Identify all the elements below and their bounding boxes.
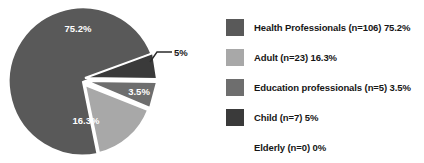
pie-slice-label-health-professionals: 75.2%: [65, 23, 92, 34]
legend-swatch-health-professionals: [226, 19, 244, 36]
legend-item-education-professionals[interactable]: Education professionals (n=5) 3.5%: [226, 72, 424, 102]
chart-legend: Health Professionals (n=106) 75.2% Adult…: [226, 12, 424, 157]
pie-chart-svg: 75.2% 16.3% 3.5% 5%: [0, 0, 212, 163]
legend-swatch-elderly: [226, 139, 244, 156]
pie-slice-label-education-professionals: 3.5%: [128, 86, 150, 97]
legend-label-child: Child (n=7) 5%: [254, 112, 318, 123]
pie-chart-figure: 75.2% 16.3% 3.5% 5% Health Professionals…: [0, 0, 424, 163]
legend-swatch-child: [226, 109, 244, 126]
legend-label-education-professionals: Education professionals (n=5) 3.5%: [254, 82, 411, 93]
legend-item-child[interactable]: Child (n=7) 5%: [226, 102, 424, 132]
legend-label-health-professionals: Health Professionals (n=106) 75.2%: [254, 22, 410, 33]
legend-item-health-professionals[interactable]: Health Professionals (n=106) 75.2%: [226, 12, 424, 42]
legend-label-adult: Adult (n=23) 16.3%: [254, 52, 337, 63]
legend-item-elderly[interactable]: Elderly (n=0) 0%: [226, 132, 424, 162]
pie-slice-label-adult: 16.3%: [73, 115, 100, 126]
pie-chart-plot-area: 75.2% 16.3% 3.5% 5%: [0, 0, 212, 163]
pie-slice-label-child: 5%: [174, 47, 188, 58]
legend-swatch-adult: [226, 49, 244, 66]
legend-label-elderly: Elderly (n=0) 0%: [254, 142, 326, 153]
legend-item-adult[interactable]: Adult (n=23) 16.3%: [226, 42, 424, 72]
legend-swatch-education-professionals: [226, 79, 244, 96]
